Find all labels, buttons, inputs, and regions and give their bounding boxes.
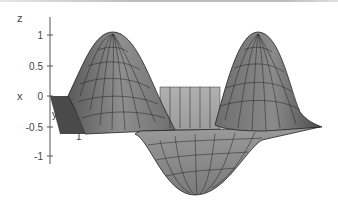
- z-axis-label: z: [17, 12, 23, 24]
- left-peak: [68, 32, 175, 134]
- z-tick-neg1: -1: [34, 151, 43, 162]
- surface-plot: 1 0.5 0 -0.5 -1 z x: [0, 0, 338, 201]
- z-tick-0.5: 0.5: [29, 61, 43, 72]
- y-axis-label: y: [52, 108, 58, 120]
- z-tick-1: 1: [37, 30, 43, 41]
- y-tick-1: 1: [76, 131, 82, 142]
- z-tick-0: 0: [37, 91, 43, 102]
- z-axis: 1 0.5 0 -0.5 -1: [26, 17, 53, 164]
- z-tick-neg0.5: -0.5: [26, 122, 44, 133]
- x-axis-label: x: [17, 90, 23, 102]
- right-peak: [215, 32, 322, 131]
- front-trough: [135, 127, 320, 195]
